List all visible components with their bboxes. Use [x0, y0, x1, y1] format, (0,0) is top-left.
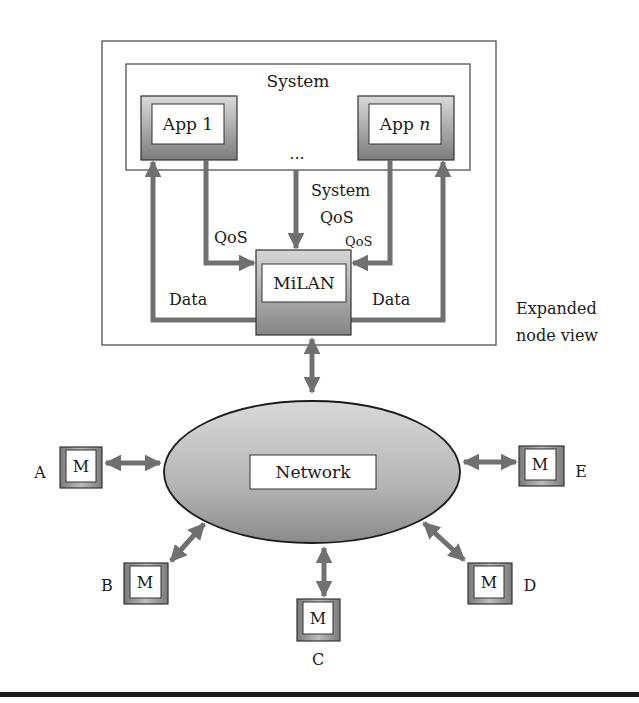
- apps-ellipsis: ...: [289, 144, 304, 163]
- svg-text:App n: App n: [379, 114, 430, 134]
- svg-text:App 1: App 1: [162, 114, 213, 134]
- qos-arrow-left: [206, 160, 254, 263]
- milan-label: MiLAN: [273, 273, 334, 293]
- milan-architecture-diagram: System ... App 1 App n QoS QoS System Qo…: [0, 0, 639, 703]
- milan-box: MiLAN: [256, 250, 351, 335]
- data-label-right: Data: [372, 290, 411, 309]
- qos-label-right: QoS: [345, 234, 372, 249]
- node-a: M A: [33, 447, 102, 488]
- node-d-inner: M: [481, 573, 497, 592]
- node-e-label: E: [575, 462, 587, 481]
- expanded-node-view-label-line1: Expanded: [516, 299, 597, 318]
- bottom-rule: [0, 692, 639, 697]
- node-c-label: C: [312, 650, 324, 669]
- node-d-label: D: [524, 576, 537, 595]
- network-label: Network: [276, 462, 352, 482]
- app-1-label: App: [162, 114, 202, 134]
- system-label: System: [267, 71, 330, 91]
- node-e-inner: M: [532, 455, 548, 474]
- node-b-arrow: [171, 524, 204, 561]
- node-a-label: A: [33, 463, 46, 482]
- app-n-box: App n: [358, 96, 454, 160]
- system-qos-label-line2: QoS: [320, 208, 354, 227]
- node-d: M D: [468, 563, 536, 604]
- system-qos-label-line1: System: [311, 181, 370, 200]
- app-1-box: App 1: [141, 96, 237, 160]
- node-d-arrow: [424, 523, 464, 560]
- qos-label-left: QoS: [214, 228, 248, 247]
- node-b: M B: [101, 563, 168, 604]
- expanded-node-view-label-line2: node view: [516, 326, 598, 345]
- node-b-label: B: [101, 576, 113, 595]
- node-a-inner: M: [73, 457, 89, 476]
- data-label-left: Data: [169, 290, 208, 309]
- node-b-inner: M: [137, 573, 153, 592]
- node-c: M C: [297, 599, 340, 669]
- node-c-inner: M: [310, 609, 326, 628]
- app-n-label: App: [379, 114, 419, 134]
- node-e: M E: [519, 446, 587, 486]
